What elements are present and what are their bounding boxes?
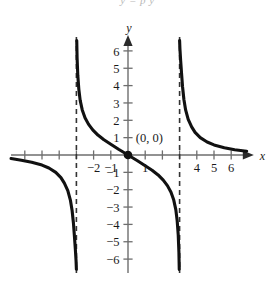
y-tick-label: −6 <box>106 253 119 267</box>
y-tick-label: −5 <box>106 235 119 249</box>
x-tick-label: 1 <box>142 161 148 175</box>
y-tick-label: 6 <box>113 45 119 59</box>
cropped-header-text: y = p y <box>0 0 275 6</box>
point-markers-group <box>124 151 133 160</box>
y-axis-label: y <box>125 21 132 35</box>
graph-figure: y = p y −2−11456−6−5−4−3−2−1123456xy(0, … <box>0 0 275 282</box>
y-tick-label: 3 <box>113 97 119 111</box>
y-tick-label: −2 <box>106 183 119 197</box>
origin-point-marker <box>124 151 133 160</box>
y-tick-label: −4 <box>106 218 120 232</box>
x-tick-label: 5 <box>211 161 217 175</box>
origin-point-label: (0, 0) <box>136 131 163 145</box>
curve-left-branch <box>11 158 76 269</box>
x-tick-label: −2 <box>87 161 100 175</box>
y-tick-label: 1 <box>113 131 119 145</box>
curve-right-branch <box>180 40 247 151</box>
y-tick-label: −3 <box>106 201 119 215</box>
y-tick-label: 2 <box>113 114 119 128</box>
coordinate-plane: −2−11456−6−5−4−3−2−1123456xy(0, 0) <box>0 0 275 282</box>
x-axis-label: x <box>259 149 266 163</box>
x-tick-label: 4 <box>194 161 201 175</box>
y-tick-label: −1 <box>106 166 119 180</box>
axes-group <box>11 35 254 273</box>
x-tick-label: 6 <box>228 161 234 175</box>
y-tick-label: 5 <box>113 62 119 76</box>
y-tick-label: 4 <box>113 79 120 93</box>
y-axis-arrowhead <box>123 35 132 46</box>
